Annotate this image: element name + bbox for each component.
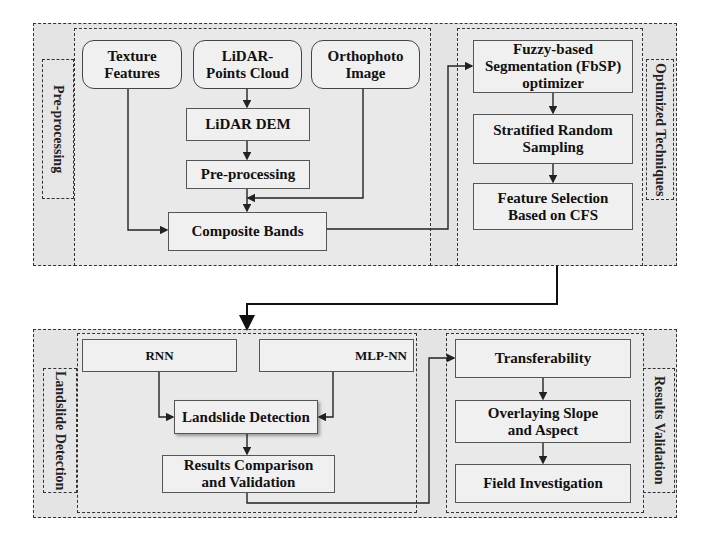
composite-bands-box: Composite Bands [168, 212, 327, 251]
input-texture-features: Texture Features [82, 40, 182, 89]
input-lidar-points-cloud: LiDAR- Points Cloud [193, 40, 302, 89]
stratified-sampling-box: Stratified Random Sampling [473, 114, 633, 164]
preprocessing-box: Pre-processing [186, 160, 310, 189]
mlp-nn-box: MLP-NN [259, 339, 414, 372]
results-comparison-box: Results Comparison and Validation [162, 455, 335, 493]
preprocessing-side-label: Pre-processing [42, 59, 74, 199]
overlaying-slope-aspect-box: Overlaying Slope and Aspect [455, 400, 631, 443]
input-orthophoto-image: Orthophoto Image [311, 40, 420, 89]
landslide-detection-box: Landslide Detection [174, 400, 318, 434]
lidar-dem-box: LiDAR DEM [186, 108, 310, 141]
optimized-side-label: Optimized Techniques [646, 59, 674, 200]
rnn-box: RNN [82, 339, 237, 372]
transferability-box: Transferability [455, 339, 631, 378]
fbsp-optimizer-box: Fuzzy-based Segmentation (FbSP) optimize… [473, 40, 633, 93]
validation-side-label: Results Validation [643, 368, 675, 493]
field-investigation-box: Field Investigation [455, 464, 631, 503]
detection-side-label: Landslide Detection [43, 368, 77, 493]
feature-selection-box: Feature Selection Based on CFS [473, 183, 633, 230]
